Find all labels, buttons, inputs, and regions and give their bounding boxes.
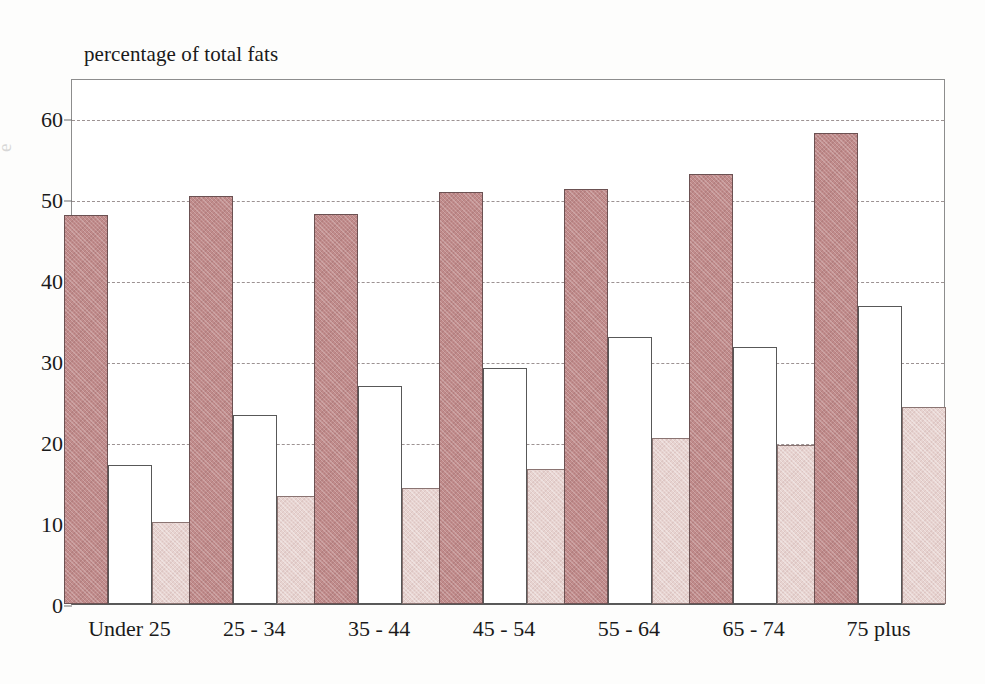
bar: [483, 368, 527, 604]
bar-group: [64, 80, 196, 604]
plot-area: 0102030405060: [71, 79, 945, 605]
y-tick-label: 60: [41, 109, 63, 131]
bar: [233, 415, 277, 604]
y-tick-label: 20: [41, 433, 63, 455]
y-tick-label: 40: [41, 271, 63, 293]
y-tick-label: 30: [41, 352, 63, 374]
chart-title: percentage of total fats: [84, 42, 278, 67]
y-tick-mark: [64, 606, 72, 607]
bar: [439, 192, 483, 604]
bar-group: [189, 80, 321, 604]
bar: [814, 133, 858, 604]
bar-group: [564, 80, 696, 604]
bar-series-container: [72, 80, 944, 604]
bar: [902, 407, 946, 604]
bar: [314, 214, 358, 604]
bar: [689, 174, 733, 605]
bar: [189, 196, 233, 604]
bar-group: [439, 80, 571, 604]
bar: [733, 347, 777, 604]
bar-group: [814, 80, 946, 604]
bar: [108, 465, 152, 604]
y-tick-label: 0: [52, 595, 63, 617]
x-axis-category-label: 75 plus: [793, 618, 965, 640]
cropped-y-axis-label: e: [0, 112, 12, 152]
bar: [858, 306, 902, 604]
bar: [64, 215, 108, 604]
chart-page: e percentage of total fats 0102030405060…: [0, 0, 985, 684]
bar: [608, 337, 652, 604]
y-tick-label: 10: [41, 514, 63, 536]
bar-group: [314, 80, 446, 604]
bar: [358, 386, 402, 604]
bar-group: [689, 80, 821, 604]
y-tick-label: 50: [41, 190, 63, 212]
bar: [564, 189, 608, 604]
